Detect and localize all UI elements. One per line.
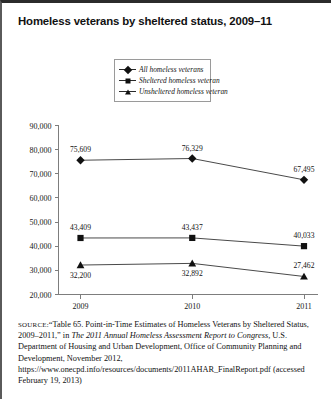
source-note: SOURCE:“Table 65. Point-in-Time Estimate… [18,319,321,386]
data-point-label: 32,200 [70,271,91,280]
data-point-label: 32,892 [182,269,203,278]
x-axis-tick-label: 2010 [184,302,200,311]
diamond-marker-icon [300,176,308,184]
y-axis-tick-label: 60,000 [30,194,52,203]
data-point-label: 27,462 [294,261,315,270]
source-prefix: SOURCE: [18,321,49,328]
data-point-label: 43,409 [70,223,91,232]
square-marker-icon [189,235,195,241]
y-axis-tick-label: 80,000 [30,146,52,155]
y-axis-tick-label: 20,000 [30,291,52,300]
y-axis-tick-label: 90,000 [30,122,52,131]
diamond-marker-icon [76,156,84,164]
line-chart-plot: 20,00030,00040,00050,00060,00070,00080,0… [2,3,331,313]
data-point-label: 43,437 [182,223,203,232]
y-axis-tick-label: 40,000 [30,242,52,251]
data-point-label: 76,329 [182,144,203,153]
square-marker-icon [77,235,83,241]
data-point-label: 67,495 [294,165,315,174]
y-axis-tick-label: 70,000 [30,170,52,179]
figure-panel: Homeless veterans by sheltered status, 2… [0,0,331,399]
x-axis-tick-label: 2011 [296,302,312,311]
y-axis-tick-label: 30,000 [30,266,52,275]
x-axis-tick-label: 2009 [73,302,89,311]
diamond-marker-icon [188,154,196,162]
square-marker-icon [301,243,307,249]
data-point-label: 75,609 [70,145,91,154]
source-title-italic: The 2011 Annual Homeless Assessment Repo… [71,331,270,340]
y-axis-tick-label: 50,000 [30,218,52,227]
data-point-label: 40,033 [294,231,315,240]
